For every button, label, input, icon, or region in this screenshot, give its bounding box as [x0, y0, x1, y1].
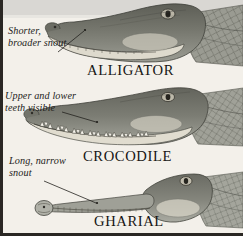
caption-gharial: GHARIAL	[94, 213, 164, 230]
annotation-alligator: Shorter, broader snout	[8, 25, 66, 48]
annotation-alligator-line-1: Shorter,	[8, 25, 66, 37]
annotation-gharial: Long, narrow snout	[9, 155, 66, 178]
annotation-crocodile-line-2: teeth visible	[5, 102, 76, 114]
annotation-crocodile-line-1: Upper and lower	[5, 90, 76, 102]
gharial-nostril	[43, 206, 45, 208]
caption-alligator: ALLIGATOR	[87, 62, 174, 79]
caption-crocodile: CROCODILE	[83, 148, 172, 165]
annotation-crocodile: Upper and lower teeth visible	[5, 90, 76, 113]
plate-bottom-border	[0, 233, 243, 236]
annotation-gharial-line-2: snout	[9, 167, 66, 179]
annotation-alligator-line-2: broader snout	[8, 37, 66, 49]
plate-left-border	[0, 0, 3, 236]
annotation-gharial-line-1: Long, narrow	[9, 155, 66, 167]
crocodilian-comparison-figure: Shorter, broader snout ALLIGATOR Upper a…	[0, 0, 243, 236]
